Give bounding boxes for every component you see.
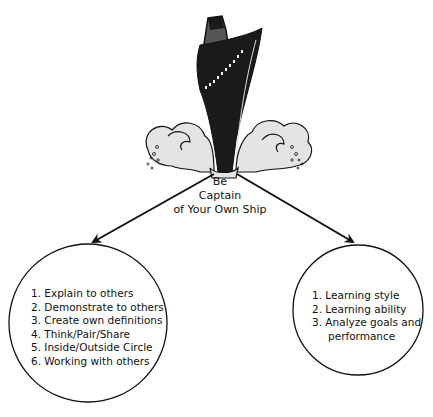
list-item: 5. Inside/Outside Circle: [31, 341, 164, 355]
title-line: Be: [150, 175, 290, 189]
list-item: performance: [312, 330, 421, 344]
title-line: of Your Own Ship: [150, 203, 290, 217]
list-item: 3. Create own definitions: [31, 314, 164, 328]
center-title: Be Captain of Your Own Ship: [150, 175, 290, 217]
list-item: 4. Think/Pair/Share: [31, 328, 164, 342]
list-item: 2. Demonstrate to others: [31, 301, 164, 315]
title-line: Captain: [150, 189, 290, 203]
list-item: 3. Analyze goals and: [312, 316, 421, 330]
left-circle-list: 1. Explain to others 2. Demonstrate to o…: [31, 287, 164, 368]
list-item: 6. Working with others: [31, 355, 164, 369]
list-item: 2. Learning ability: [312, 303, 421, 317]
right-circle-list: 1. Learning style 2. Learning ability 3.…: [312, 289, 421, 343]
list-item: 1. Learning style: [312, 289, 421, 303]
list-item: 1. Explain to others: [31, 287, 164, 301]
